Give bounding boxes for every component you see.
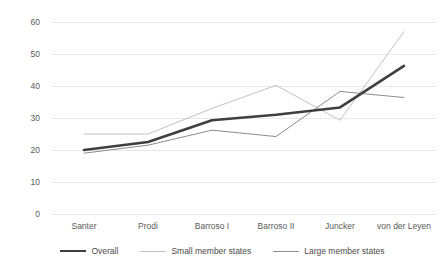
x-tick-label: Barroso I xyxy=(195,221,230,231)
legend-label: Large member states xyxy=(304,246,384,256)
y-tick-label: 40 xyxy=(14,81,40,91)
chart-legend: OverallSmall member statesLarge member s… xyxy=(0,246,445,256)
x-tick-label: Juncker xyxy=(325,221,355,231)
y-tick-label: 10 xyxy=(14,177,40,187)
x-tick-label: von der Leyen xyxy=(377,221,431,231)
legend-swatch-icon xyxy=(60,250,86,252)
legend-item[interactable]: Small member states xyxy=(140,246,251,256)
x-tick-label: Santer xyxy=(71,221,96,231)
legend-item[interactable]: Overall xyxy=(60,246,118,256)
y-tick-label: 20 xyxy=(14,145,40,155)
x-tick-label: Prodi xyxy=(138,221,158,231)
legend-label: Overall xyxy=(91,246,118,256)
y-tick-label: 50 xyxy=(14,49,40,59)
legend-swatch-icon xyxy=(140,251,166,252)
series-lines xyxy=(84,32,404,154)
y-tick-label: 0 xyxy=(14,209,40,219)
y-tick-label: 30 xyxy=(14,113,40,123)
chart-plot-area xyxy=(0,0,445,273)
line-chart: 0102030405060 SanterProdiBarroso IBarros… xyxy=(0,0,445,273)
legend-label: Small member states xyxy=(171,246,251,256)
x-tick-label: Barroso II xyxy=(258,221,295,231)
series-line-overall xyxy=(84,66,404,150)
legend-swatch-icon xyxy=(273,251,299,252)
y-tick-label: 60 xyxy=(14,17,40,27)
legend-item[interactable]: Large member states xyxy=(273,246,384,256)
